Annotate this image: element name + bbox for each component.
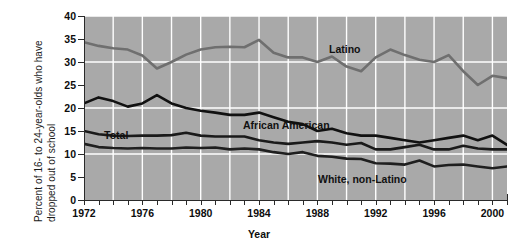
y-axis-line [84, 16, 85, 201]
series-label-african-american: African American [243, 119, 330, 131]
x-tick-mark [492, 200, 493, 205]
y-tick-label: 30 [54, 56, 76, 68]
x-tick-mark [288, 200, 289, 205]
series-label-total: Total [104, 129, 128, 141]
x-tick-label: 1984 [247, 207, 270, 219]
x-tick-mark [172, 200, 173, 205]
x-tick-mark [376, 200, 377, 205]
series-label-white-non-latino: White, non-Latino [318, 173, 407, 185]
x-tick-mark [463, 200, 464, 205]
x-axis-title: Year [0, 228, 518, 240]
horizontal-gridlines [84, 16, 507, 154]
y-tick-label: 40 [54, 10, 76, 22]
x-tick-label: 1980 [189, 207, 212, 219]
x-tick-mark [303, 200, 304, 205]
y-tick-mark [78, 131, 84, 132]
x-tick-mark [361, 200, 362, 205]
x-tick-label: 1976 [131, 207, 154, 219]
x-tick-label: 1992 [364, 207, 387, 219]
y-axis-title-container: Percent of 16- to 24-year-olds who have … [0, 0, 40, 230]
y-tick-mark [78, 200, 84, 201]
series-lines [84, 40, 507, 168]
x-tick-mark [142, 200, 143, 205]
y-tick-mark [78, 62, 84, 63]
x-tick-mark [449, 200, 450, 205]
y-tick-mark [78, 154, 84, 155]
y-tick-mark [78, 177, 84, 178]
x-tick-mark [244, 200, 245, 205]
x-tick-mark [215, 200, 216, 205]
y-tick-label: 15 [54, 125, 76, 137]
y-tick-mark [78, 108, 84, 109]
x-tick-mark [201, 200, 202, 205]
y-tick-label: 25 [54, 79, 76, 91]
x-tick-mark [113, 200, 114, 205]
y-tick-label: 20 [54, 102, 76, 114]
x-tick-mark [99, 200, 100, 205]
chart-canvas [84, 16, 507, 200]
y-tick-mark [78, 16, 84, 17]
x-tick-label: 1972 [72, 207, 95, 219]
x-tick-mark [84, 200, 85, 205]
x-tick-mark [434, 200, 435, 205]
y-tick-label: 10 [54, 148, 76, 160]
x-tick-mark [478, 200, 479, 205]
x-tick-mark [347, 200, 348, 205]
plot-area [84, 16, 507, 200]
x-tick-mark [230, 200, 231, 205]
x-tick-label: 2000 [481, 207, 504, 219]
x-tick-label: 1988 [306, 207, 329, 219]
x-tick-mark [128, 200, 129, 205]
x-tick-mark [317, 200, 318, 205]
x-tick-mark [274, 200, 275, 205]
y-tick-label: 35 [54, 33, 76, 45]
y-tick-mark [78, 39, 84, 40]
y-tick-label: 5 [54, 171, 76, 183]
x-tick-mark [507, 200, 508, 205]
x-tick-mark [390, 200, 391, 205]
x-tick-mark [259, 200, 260, 205]
series-label-latino: Latino [329, 43, 361, 55]
x-tick-mark [419, 200, 420, 205]
x-tick-mark [157, 200, 158, 205]
x-tick-mark [186, 200, 187, 205]
x-tick-label: 1996 [422, 207, 445, 219]
x-axis-line [84, 200, 508, 201]
y-tick-label: 0 [54, 194, 76, 206]
x-tick-mark [332, 200, 333, 205]
y-tick-mark [78, 85, 84, 86]
x-tick-mark [405, 200, 406, 205]
dropout-rate-line-chart: Percent of 16- to 24-year-olds who have … [0, 0, 518, 250]
